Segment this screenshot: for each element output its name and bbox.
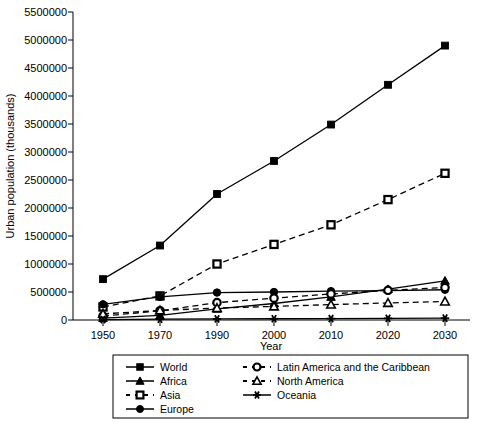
marker-open-triangle	[253, 377, 261, 384]
y-tick-label: 4500000	[24, 62, 67, 74]
y-tick-label: 1000000	[24, 258, 67, 270]
series-layer	[99, 42, 450, 323]
marker-filled-circle	[213, 289, 220, 296]
y-tick-label: 4000000	[24, 90, 67, 102]
x-tick-label: 1990	[205, 329, 229, 341]
x-tick-label: 2020	[376, 329, 400, 341]
y-tick-label: 2000000	[24, 202, 67, 214]
y-tick-label: 5000000	[24, 34, 67, 46]
y-tick-label: 5500000	[24, 6, 67, 18]
legend-item-europe[interactable]: Europe	[126, 403, 194, 415]
marker-open-circle	[441, 284, 448, 291]
y-tick-label: 3000000	[24, 146, 67, 158]
marker-open-triangle	[441, 297, 450, 305]
y-tick-label: 1500000	[24, 230, 67, 242]
legend-item-asia[interactable]: Asia	[126, 389, 181, 401]
marker-filled-square	[442, 42, 449, 49]
marker-open-triangle	[384, 299, 393, 307]
marker-filled-square	[157, 242, 164, 249]
marker-filled-square	[137, 364, 143, 370]
legend-entries: WorldAfricaAsiaEuropeLatin America and t…	[126, 361, 430, 415]
marker-open-square	[327, 221, 334, 228]
marker-open-circle	[384, 287, 391, 294]
legend-label: Oceania	[277, 389, 316, 401]
marker-open-square	[137, 392, 144, 399]
legend-item-latin-america-and-the-caribbean[interactable]: Latin America and the Caribbean	[243, 361, 430, 373]
marker-filled-square	[214, 191, 221, 198]
marker-filled-circle	[156, 293, 163, 300]
legend-item-north-america[interactable]: North America	[243, 375, 344, 387]
legend-label: North America	[277, 375, 344, 387]
x-tick-label: 2010	[319, 329, 343, 341]
x-axis-title: Year	[260, 340, 283, 352]
x-tick-label: 1970	[148, 329, 172, 341]
legend-label: Latin America and the Caribbean	[277, 361, 430, 373]
y-axis-title: Urban population (thousands)	[4, 94, 16, 239]
marker-filled-square	[328, 121, 335, 128]
legend-item-world[interactable]: World	[126, 361, 187, 373]
x-tick-label: 2030	[433, 329, 457, 341]
marker-open-triangle	[327, 300, 336, 308]
y-axis-tick-labels: 0500000100000015000002000000250000030000…	[24, 6, 67, 326]
x-axis-tick-marks	[103, 320, 445, 326]
marker-open-square	[441, 170, 448, 177]
legend-label: Africa	[160, 375, 187, 387]
legend-label: Europe	[160, 403, 194, 415]
legend-item-africa[interactable]: Africa	[126, 375, 187, 387]
y-tick-label: 2500000	[24, 174, 67, 186]
marker-filled-square	[100, 276, 107, 283]
marker-open-square	[213, 260, 220, 267]
y-tick-label: 500000	[30, 286, 67, 298]
marker-open-circle	[327, 290, 334, 297]
urban-population-line-chart: 0500000100000015000002000000250000030000…	[0, 0, 481, 423]
marker-open-square	[270, 241, 277, 248]
legend-item-oceania[interactable]: Oceania	[243, 389, 316, 401]
marker-filled-square	[271, 158, 278, 165]
y-axis-tick-marks	[68, 12, 73, 320]
marker-filled-circle	[99, 301, 106, 308]
marker-open-square	[384, 196, 391, 203]
legend-label: Asia	[160, 389, 181, 401]
y-tick-label: 0	[61, 314, 67, 326]
y-tick-label: 3500000	[24, 118, 67, 130]
x-tick-label: 1950	[91, 329, 115, 341]
marker-asterisk	[253, 392, 261, 399]
chart-canvas: 0500000100000015000002000000250000030000…	[0, 0, 481, 423]
marker-filled-square	[385, 81, 392, 88]
marker-filled-circle	[136, 405, 143, 412]
legend-label: World	[160, 361, 187, 373]
marker-open-circle	[253, 363, 260, 370]
